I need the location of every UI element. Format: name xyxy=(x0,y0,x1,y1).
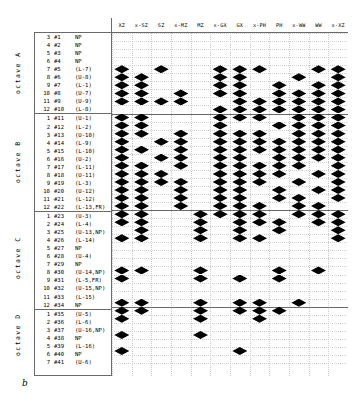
row-label: 1#23(U-3) xyxy=(34,211,111,220)
column-header-x-ww: x-WW xyxy=(289,18,309,32)
data-marker-diamond xyxy=(252,162,267,170)
row-octave-number: 4 xyxy=(34,334,54,342)
row-octave-number: 4 xyxy=(34,236,54,244)
row-index-number: #19 xyxy=(54,179,75,187)
data-marker-diamond xyxy=(134,146,149,154)
row-tag: (U-6) xyxy=(75,358,111,366)
data-marker-diamond xyxy=(331,226,346,234)
data-marker-diamond xyxy=(114,178,129,186)
data-marker-diamond xyxy=(154,170,169,178)
data-marker-diamond xyxy=(114,65,129,73)
data-marker-diamond xyxy=(331,194,346,202)
data-marker-diamond xyxy=(272,122,287,130)
row-index-number: #27 xyxy=(54,244,75,252)
row-octave-number: 6 xyxy=(34,155,54,163)
row-label: 4#14(L-9) xyxy=(34,139,111,147)
data-marker-diamond xyxy=(232,130,247,138)
data-marker-diamond xyxy=(311,138,326,146)
data-marker-diamond xyxy=(173,194,188,202)
row-index-number: #33 xyxy=(54,293,75,301)
data-marker-diamond xyxy=(193,266,208,274)
data-marker-diamond xyxy=(252,307,267,315)
row-index-number: #20 xyxy=(54,187,75,195)
data-marker-diamond xyxy=(154,138,169,146)
grid-hline xyxy=(112,323,348,324)
grid-hline xyxy=(112,186,348,187)
row-octave-number: 8 xyxy=(34,73,54,81)
data-marker-diamond xyxy=(311,266,326,274)
grid-hline xyxy=(112,73,348,74)
data-marker-diamond xyxy=(114,315,129,323)
data-marker-diamond xyxy=(331,130,346,138)
data-marker-diamond xyxy=(331,186,346,194)
data-marker-diamond xyxy=(252,170,267,178)
row-index-number: #15 xyxy=(54,147,75,155)
data-marker-diamond xyxy=(272,266,287,274)
data-marker-diamond xyxy=(193,234,208,242)
data-marker-diamond xyxy=(114,186,129,194)
data-marker-diamond xyxy=(232,154,247,162)
row-label: 6#16(U-2) xyxy=(34,155,111,163)
row-tag: (L-6) xyxy=(75,318,111,326)
data-marker-diamond xyxy=(134,114,149,122)
row-octave-number: 3 xyxy=(34,326,54,334)
row-index-number: #7 xyxy=(54,81,75,89)
row-label: 5#27NP xyxy=(34,244,111,252)
data-marker-diamond xyxy=(134,194,149,202)
data-marker-diamond xyxy=(213,210,228,218)
data-marker-diamond xyxy=(134,226,149,234)
row-label: 9#19(L-3) xyxy=(34,179,111,187)
data-marker-diamond xyxy=(331,138,346,146)
row-label: 2#24(L-4) xyxy=(34,220,111,228)
grid-hline xyxy=(112,355,348,356)
row-tag: (L-12) xyxy=(75,195,111,203)
row-tag: (U-3) xyxy=(75,212,111,220)
row-label: 11#9(U-9) xyxy=(34,97,111,105)
data-marker-diamond xyxy=(291,73,306,81)
data-marker-diamond xyxy=(154,154,169,162)
data-marker-diamond xyxy=(154,97,169,105)
data-marker-diamond xyxy=(272,170,287,178)
row-index-number: #1 xyxy=(54,33,75,41)
row-index-number: #29 xyxy=(54,260,75,268)
row-octave-number: 6 xyxy=(34,350,54,358)
row-index-number: #23 xyxy=(54,212,75,220)
grid-hline xyxy=(112,178,348,179)
data-marker-diamond xyxy=(252,218,267,226)
data-marker-diamond xyxy=(252,202,267,210)
grid-hline xyxy=(112,218,348,219)
data-marker-diamond xyxy=(114,146,129,154)
data-marker-diamond xyxy=(232,162,247,170)
data-marker-diamond xyxy=(173,186,188,194)
data-marker-diamond xyxy=(213,146,228,154)
row-octave-number: 7 xyxy=(34,260,54,268)
row-octave-number: 11 xyxy=(34,97,54,105)
row-tag: (U-11) xyxy=(75,171,111,179)
row-tag: NP xyxy=(75,33,111,41)
row-label: 7#5(L-7) xyxy=(34,65,111,73)
data-marker-diamond xyxy=(193,331,208,339)
row-octave-number: 5 xyxy=(34,342,54,350)
data-marker-diamond xyxy=(134,130,149,138)
column-header-sz: SZ xyxy=(151,18,171,32)
data-marker-diamond xyxy=(154,65,169,73)
column-header-x-xz: x-XZ xyxy=(328,18,348,32)
data-marker-diamond xyxy=(134,299,149,307)
grid-hline xyxy=(112,154,348,155)
data-marker-diamond xyxy=(114,114,129,122)
row-label: 12#10(L-8) xyxy=(34,105,111,113)
row-tag: (U-12) xyxy=(75,187,111,195)
data-marker-diamond xyxy=(252,130,267,138)
row-octave-number: 1 xyxy=(34,114,54,122)
row-label: 2#12(L-2) xyxy=(34,123,111,131)
row-tag: (L-7) xyxy=(75,65,111,73)
grid-vline xyxy=(132,33,133,376)
row-tag: NP xyxy=(75,350,111,358)
data-marker-diamond xyxy=(272,186,287,194)
data-marker-diamond xyxy=(291,114,306,122)
data-marker-diamond xyxy=(272,275,287,283)
data-marker-diamond xyxy=(331,65,346,73)
data-marker-diamond xyxy=(114,138,129,146)
row-octave-number: 5 xyxy=(34,147,54,155)
column-header-ww: WW xyxy=(309,18,329,32)
